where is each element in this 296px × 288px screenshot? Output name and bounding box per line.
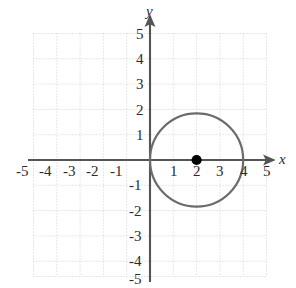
- y-tick-label-1: 1: [136, 128, 144, 143]
- y-tick-label--4: -4: [129, 254, 142, 269]
- x-tick-label-2: 2: [193, 164, 201, 179]
- x-tick-label--2: -2: [86, 164, 99, 179]
- y-tick-label--3: -3: [129, 229, 142, 244]
- y-tick-label--2: -2: [129, 204, 142, 219]
- x-tick-label--3: -3: [63, 164, 76, 179]
- y-tick-label-4: 4: [136, 52, 144, 67]
- x-tick-label-4: 4: [240, 164, 248, 179]
- y-tick-label-2: 2: [136, 103, 144, 118]
- coordinate-plane-svg: [0, 0, 296, 288]
- y-tick-label-3: 3: [136, 77, 144, 92]
- x-tick-label-1: 1: [170, 164, 178, 179]
- y-tick-label--1: -1: [129, 178, 142, 193]
- x-tick-label--1: -1: [110, 164, 123, 179]
- x-tick-label-5: 5: [263, 164, 271, 179]
- x-tick-label--4: -4: [39, 164, 52, 179]
- x-axis-label: x: [279, 152, 286, 167]
- graph-figure: x y -5 -4 -3 -2 -1 1 2 3 4 5 5 4 3 2 1 -…: [0, 0, 296, 288]
- y-tick-label-5: 5: [136, 27, 144, 42]
- y-axis-label: y: [146, 4, 153, 19]
- y-tick-label--5: -5: [129, 272, 142, 287]
- x-tick-label--5: -5: [16, 164, 29, 179]
- x-tick-label-3: 3: [216, 164, 224, 179]
